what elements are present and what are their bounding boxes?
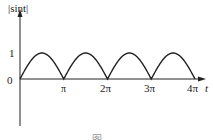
x-tick-2pi: 2π [100,83,111,94]
y-tick-1: 1 [9,48,15,59]
figure-caption: 图 [92,134,102,140]
x-tick-3pi: 3π [144,83,155,94]
y-tick-0: 0 [7,75,13,86]
sin-abs-curve [20,53,195,79]
x-tick-4pi: 4π [187,83,198,94]
chart-canvas [0,0,213,140]
x-axis-label: t [205,83,208,94]
x-axis-arrow-icon [198,77,206,82]
y-axis-label: |sint| [8,3,28,14]
x-tick-pi: π [61,83,66,94]
